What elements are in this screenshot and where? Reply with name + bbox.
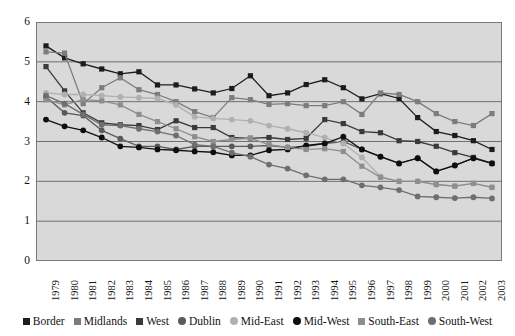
data-point (341, 149, 346, 154)
data-point (489, 161, 495, 167)
data-point (62, 92, 68, 98)
data-point (285, 126, 291, 132)
data-point (434, 182, 439, 187)
data-point (471, 123, 476, 128)
data-point (211, 90, 216, 95)
data-point (117, 136, 123, 142)
data-point (434, 111, 439, 116)
data-point (489, 111, 494, 116)
legend-item-mid-east[interactable]: Mid-East (230, 315, 284, 327)
x-tick-label: 1995 (347, 280, 358, 301)
legend-label: Midlands (84, 315, 127, 327)
data-point (452, 163, 458, 169)
x-tick-label: 1983 (124, 280, 135, 301)
data-point (229, 86, 234, 91)
legend-item-south-east[interactable]: South-East (358, 315, 418, 327)
data-point (62, 123, 68, 129)
data-point (452, 184, 457, 189)
data-point (433, 168, 439, 174)
data-point (341, 121, 346, 126)
data-point (285, 145, 290, 150)
data-point (136, 69, 141, 74)
x-tick-label: 1988 (217, 280, 228, 301)
series-line (46, 97, 492, 171)
data-point (452, 133, 457, 138)
data-point (359, 147, 365, 153)
data-point (434, 129, 439, 134)
data-point (322, 117, 327, 122)
data-point (303, 130, 309, 136)
data-point (229, 137, 234, 142)
data-point (155, 129, 161, 135)
data-point (304, 82, 309, 87)
legend-item-west[interactable]: West (136, 315, 169, 327)
data-point (340, 134, 346, 140)
x-tick-label: 1999 (422, 280, 433, 301)
chart-page: 0123456 19791980198119821983198419851986… (0, 0, 515, 336)
data-point (322, 77, 327, 82)
circle-marker-icon (293, 317, 301, 325)
data-point (341, 99, 346, 104)
x-tick-label: 1984 (143, 280, 154, 301)
legend-label: Mid-East (241, 315, 284, 327)
data-point (266, 123, 272, 129)
x-tick-label: 1980 (69, 280, 80, 301)
data-point (229, 117, 235, 123)
square-marker-icon (23, 318, 30, 325)
data-point (229, 143, 235, 149)
data-point (489, 185, 494, 190)
data-point (99, 66, 104, 71)
data-point (155, 96, 161, 102)
x-tick-label: 1986 (180, 280, 191, 301)
data-point (322, 176, 328, 182)
data-point (415, 155, 421, 161)
data-point (99, 98, 104, 103)
legend-item-south-west[interactable]: South-West (428, 315, 492, 327)
data-point (192, 149, 198, 155)
x-tick-label: 1991 (273, 280, 284, 301)
data-point (471, 181, 476, 186)
data-point (396, 138, 401, 143)
data-point (266, 93, 271, 98)
data-point (248, 154, 254, 160)
legend-item-border[interactable]: Border (23, 315, 65, 327)
data-point (99, 135, 105, 141)
data-point (62, 110, 68, 116)
data-point (173, 82, 178, 87)
circle-marker-icon (428, 317, 436, 325)
data-point (173, 118, 178, 123)
data-point (99, 93, 105, 99)
legend-item-midlands[interactable]: Midlands (74, 315, 127, 327)
data-point (340, 141, 346, 147)
legend-label: West (146, 315, 169, 327)
data-point (341, 85, 346, 90)
legend-label: Mid-West (304, 315, 350, 327)
data-point (452, 150, 457, 155)
x-tick-label: 1993 (310, 280, 321, 301)
y-tick-label: 4 (8, 95, 30, 107)
data-point (378, 130, 383, 135)
series-midlands (43, 49, 494, 128)
data-point (248, 73, 253, 78)
data-point (415, 179, 420, 184)
data-point (434, 144, 439, 149)
data-point (210, 149, 216, 155)
data-point (117, 94, 123, 100)
data-point (117, 123, 123, 129)
data-point (489, 147, 494, 152)
series-line (46, 52, 492, 126)
data-point (80, 92, 86, 98)
data-point (303, 172, 309, 178)
y-tick-label: 0 (8, 254, 30, 266)
legend-item-mid-west[interactable]: Mid-West (293, 315, 350, 327)
data-point (415, 99, 420, 104)
y-tick-label: 6 (8, 15, 30, 27)
data-point (192, 134, 197, 139)
data-point (248, 118, 254, 124)
data-point (452, 119, 457, 124)
data-point (285, 137, 290, 142)
data-point (99, 85, 104, 90)
data-point (285, 166, 291, 172)
legend-item-dublin[interactable]: Dublin (178, 315, 221, 327)
data-point (415, 139, 420, 144)
